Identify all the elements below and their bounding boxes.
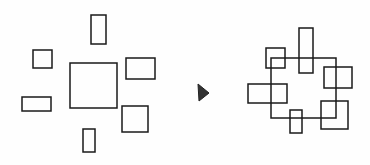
before-arrangement xyxy=(22,15,155,152)
after-rect xyxy=(321,101,348,129)
before-rect xyxy=(91,15,106,44)
before-center-square xyxy=(70,63,117,108)
after-rect xyxy=(248,84,287,103)
triangle-right-icon xyxy=(198,84,209,101)
diagram-canvas xyxy=(0,0,370,165)
before-rect xyxy=(122,106,148,132)
after-arrangement xyxy=(248,28,352,133)
before-rect xyxy=(126,58,155,79)
before-rect xyxy=(22,97,51,111)
diagram-svg xyxy=(0,0,370,165)
after-rect xyxy=(324,67,352,88)
before-rect xyxy=(83,129,95,152)
before-rect xyxy=(33,50,52,68)
after-rect xyxy=(299,28,313,73)
after-rect xyxy=(290,110,302,133)
